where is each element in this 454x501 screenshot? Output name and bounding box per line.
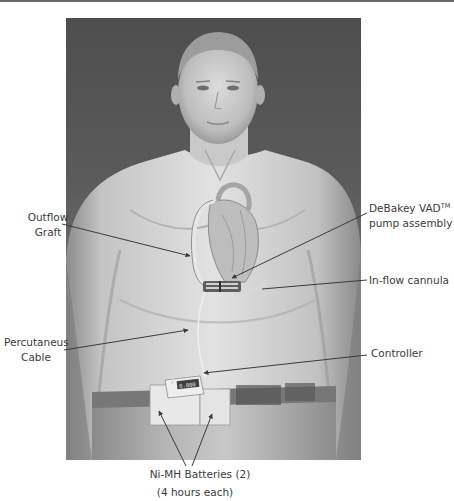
- label-debakey-main: DeBakey VAD: [369, 202, 441, 214]
- label-debakey-pump: DeBakey VADTM pump assembly: [369, 201, 452, 231]
- label-percutaneus-cable: Percutaneus Cable: [4, 335, 68, 365]
- label-inflow-cannula: In-flow cannula: [369, 273, 449, 288]
- label-percutaneus-line2: Cable: [4, 350, 68, 365]
- pump-assembly: [203, 281, 241, 292]
- vad-illustration: 0.000: [0, 0, 454, 501]
- label-debakey-line2: pump assembly: [369, 216, 452, 231]
- label-controller: Controller: [371, 346, 423, 361]
- trademark-sup: TM: [441, 202, 451, 210]
- label-batteries-note: (4 hours each): [150, 485, 240, 500]
- label-batteries: Ni-MH Batteries (2): [145, 467, 255, 482]
- label-outflow-line2: Graft: [20, 225, 76, 240]
- label-outflow-graft: Outflow Graft: [20, 210, 76, 240]
- label-outflow-line1: Outflow: [20, 210, 76, 225]
- label-debakey-line1: DeBakey VADTM: [369, 201, 452, 216]
- label-percutaneus-line1: Percutaneus: [4, 335, 68, 350]
